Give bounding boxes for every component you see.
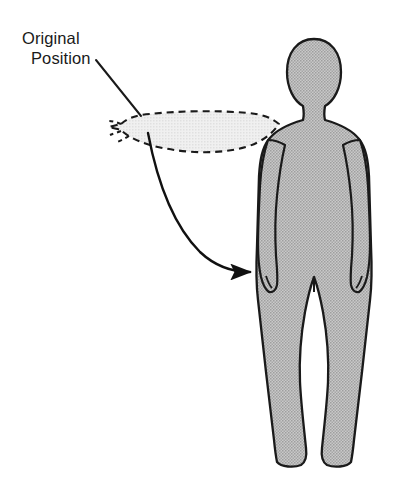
annotation-label-line1: Original (22, 29, 80, 47)
diagram-svg: Original Position (0, 0, 408, 497)
human-silhouette (256, 39, 371, 467)
annotation-label: Original Position (22, 29, 91, 67)
original-position-arm (109, 111, 279, 152)
anatomy-diagram-canvas: Original Position (0, 0, 408, 497)
annotation-leader-line (96, 60, 141, 116)
annotation-label-line2: Position (31, 49, 91, 67)
arm-motion-arrow (148, 133, 250, 272)
